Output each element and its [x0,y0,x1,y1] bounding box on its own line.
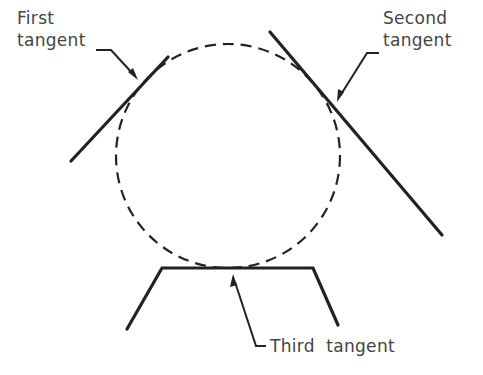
first-tangent-leader [96,50,134,75]
first-tangent-label-line2: tangent [17,30,86,50]
second-tangent-line [270,32,442,235]
tangents-diagram: First tangent Second tangent Third tange… [0,0,483,375]
first-tangent-label-line1: First [17,8,54,28]
diagram-svg [0,0,483,375]
first-tangent-line [71,57,168,161]
third-tangent-arrowhead [230,274,237,287]
second-tangent-label-line1: Second [383,8,447,28]
third-tangent-label: Third tangent [270,336,395,356]
second-tangent-label-line2: tangent [383,30,452,50]
third-tangent-leader [235,282,266,346]
second-tangent-leader [340,53,379,96]
